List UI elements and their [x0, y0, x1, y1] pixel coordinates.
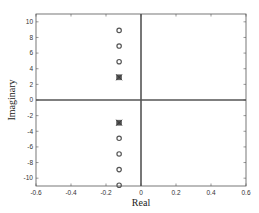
zero-marker-icon — [117, 44, 121, 48]
y-tick-label: -4 — [27, 128, 33, 135]
y-tick-label: 4 — [29, 65, 33, 72]
pole-zero-plot: -0.6-0.4-0.200.20.40.6 -10-8-6-4-2024681… — [0, 0, 259, 213]
y-tick-label: 2 — [29, 81, 33, 88]
zero-marker-icon — [117, 167, 121, 171]
y-tick-label: 8 — [29, 34, 33, 41]
y-tick-label: 10 — [26, 18, 34, 25]
x-tick-label: -0.4 — [65, 189, 77, 196]
x-tick-label: 0 — [139, 189, 143, 196]
pole-marker-icon — [116, 120, 122, 126]
y-tick-label: -10 — [24, 174, 34, 181]
reference-lines — [36, 14, 246, 186]
y-tick-label: -8 — [27, 159, 33, 166]
x-tick-label: 0.2 — [171, 189, 180, 196]
x-axis-label: Real — [132, 197, 151, 208]
y-axis-label: Imaginary — [6, 79, 17, 120]
y-tick-label: -2 — [27, 112, 33, 119]
zero-marker-icon — [117, 59, 121, 63]
zero-marker-icon — [117, 28, 121, 32]
x-tick-label: 0.4 — [206, 189, 215, 196]
x-tick-label: 0.6 — [241, 189, 250, 196]
zero-marker-icon — [117, 183, 121, 187]
x-tick-label: -0.6 — [30, 189, 42, 196]
y-tick-label: 6 — [29, 49, 33, 56]
zero-marker-icon — [117, 136, 121, 140]
pole-marker-icon — [116, 74, 122, 80]
data-markers — [116, 28, 122, 187]
zero-marker-icon — [117, 152, 121, 156]
x-tick-label: -0.2 — [100, 189, 112, 196]
y-tick-label: -6 — [27, 143, 33, 150]
y-tick-label: 0 — [29, 96, 33, 103]
